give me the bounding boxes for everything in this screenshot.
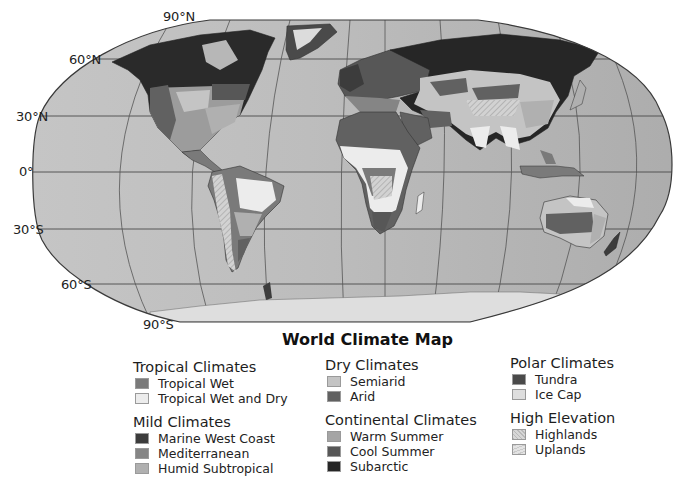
swatch-semiarid [327, 376, 341, 387]
latitude-label-60s: 60°S [61, 277, 92, 292]
legend-label: Semiarid [350, 374, 405, 389]
legend-item-arid: Arid [325, 389, 477, 404]
legend-label: Arid [350, 389, 375, 404]
legend-group-title: Mild Climates [133, 414, 288, 431]
legend-item-marine-west-coast: Marine West Coast [133, 431, 288, 446]
swatch-ice-cap [512, 389, 526, 400]
legend-item-mediterranean: Mediterranean [133, 446, 288, 461]
legend-item-humid-subtropical: Humid Subtropical [133, 461, 288, 476]
swatch-warm-summer [327, 431, 341, 442]
legend-group-continental: Continental Climates Warm Summer Cool Su… [325, 412, 477, 474]
legend-item-tropical-wet: Tropical Wet [133, 376, 288, 391]
legend-label: Subarctic [350, 459, 408, 474]
legend-label: Cool Summer [350, 444, 435, 459]
map-globe [0, 0, 688, 330]
world-climate-map [0, 0, 688, 330]
legend-label: Tropical Wet and Dry [158, 391, 288, 406]
legend-column-1: Tropical Climates Tropical Wet Tropical … [133, 359, 288, 484]
legend-item-tropical-wet-and-dry: Tropical Wet and Dry [133, 391, 288, 406]
legend-label: Mediterranean [158, 446, 249, 461]
swatch-mediterranean [135, 448, 149, 459]
legend-item-ice-cap: Ice Cap [510, 387, 615, 402]
legend-label: Warm Summer [350, 429, 443, 444]
swatch-tundra [512, 374, 526, 385]
legend-group-title: Polar Climates [510, 355, 615, 372]
latitude-label-30n: 30°N [16, 109, 48, 124]
legend-label: Ice Cap [535, 387, 582, 402]
swatch-highlands [512, 429, 526, 440]
legend-label: Marine West Coast [158, 431, 275, 446]
legend-group-title: Tropical Climates [133, 359, 288, 376]
legend-group-mild: Mild Climates Marine West Coast Mediterr… [133, 414, 288, 476]
latitude-label-90s: 90°S [143, 317, 174, 332]
swatch-arid [327, 391, 341, 402]
swatch-humid-subtropical [135, 463, 149, 474]
legend-item-cool-summer: Cool Summer [325, 444, 477, 459]
map-title: World Climate Map [282, 330, 453, 349]
legend-group-title: Dry Climates [325, 357, 477, 374]
swatch-subarctic [327, 461, 341, 472]
legend-column-2: Dry Climates Semiarid Arid Continental C… [325, 357, 477, 482]
legend-group-title: Continental Climates [325, 412, 477, 429]
swatch-tropical-wet [135, 378, 149, 389]
swatch-marine-west-coast [135, 433, 149, 444]
legend-item-warm-summer: Warm Summer [325, 429, 477, 444]
latitude-label-0: 0° [19, 164, 33, 179]
legend-label: Uplands [535, 442, 586, 457]
latitude-label-30s: 30°S [13, 222, 44, 237]
legend-label: Humid Subtropical [158, 461, 274, 476]
legend-item-uplands: Uplands [510, 442, 615, 457]
legend-item-subarctic: Subarctic [325, 459, 477, 474]
legend-label: Highlands [535, 427, 597, 442]
swatch-tropical-wet-and-dry [135, 393, 149, 404]
legend-group-dry: Dry Climates Semiarid Arid [325, 357, 477, 404]
legend-label: Tropical Wet [158, 376, 234, 391]
legend-item-tundra: Tundra [510, 372, 615, 387]
latitude-label-90n: 90°N [163, 9, 195, 24]
legend-label: Tundra [535, 372, 577, 387]
swatch-uplands [512, 444, 526, 455]
swatch-cool-summer [327, 446, 341, 457]
legend-group-high-elevation: High Elevation Highlands Uplands [510, 410, 615, 457]
legend-item-semiarid: Semiarid [325, 374, 477, 389]
legend-group-title: High Elevation [510, 410, 615, 427]
legend-item-highlands: Highlands [510, 427, 615, 442]
latitude-label-60n: 60°N [69, 52, 101, 67]
legend-column-3: Polar Climates Tundra Ice Cap High Eleva… [510, 355, 615, 465]
legend-group-polar: Polar Climates Tundra Ice Cap [510, 355, 615, 402]
legend-group-tropical: Tropical Climates Tropical Wet Tropical … [133, 359, 288, 406]
